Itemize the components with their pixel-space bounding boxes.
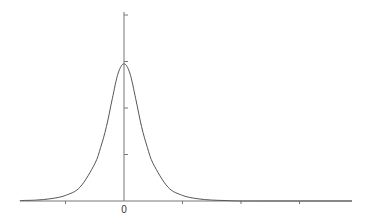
x-tick-label: 0 bbox=[121, 204, 127, 215]
y-axis-ticks bbox=[124, 15, 128, 155]
density-chart bbox=[0, 0, 372, 224]
density-curve bbox=[20, 64, 352, 201]
